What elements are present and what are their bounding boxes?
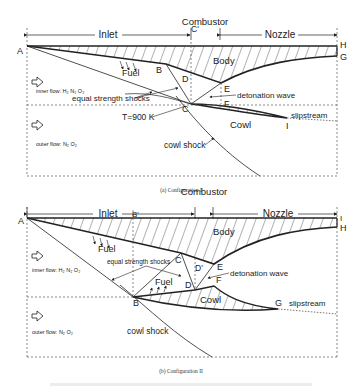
figure-caption-faint <box>50 383 312 386</box>
section-label-nozzle: Nozzle <box>265 29 296 40</box>
point-G: G <box>340 52 347 62</box>
point-A: A <box>17 46 23 56</box>
point-C: C <box>182 104 189 114</box>
figure: Inlet Combustor Nozzle A B C <box>0 0 362 389</box>
label-detonation-wave-2: detonation wave <box>230 269 289 278</box>
point-B-2: B <box>133 298 139 308</box>
point-C-prime: C' <box>191 24 199 34</box>
label-equal-strength-shocks: equal strength shocks <box>72 94 150 103</box>
label-slipstream-2: slipstream <box>289 299 326 308</box>
label-equal-strength-shocks-2: equal strength shocks <box>107 258 171 266</box>
label-body: Body <box>213 55 235 66</box>
point-D-2: D <box>185 280 192 290</box>
label-cowl-shock: cowl shock <box>164 140 206 150</box>
label-body-2: Body <box>213 226 235 237</box>
point-B: B <box>156 65 162 75</box>
outer-flow-arrow-icon <box>32 120 43 130</box>
label-outer-flow-2: outer flow: N₂ O₂ <box>32 329 73 335</box>
label-fuel-top: Fuel <box>98 244 116 254</box>
configuration-2-diagram: Inlet Combustor Nozzle A B B' C <box>18 186 347 375</box>
point-F-2: F <box>216 275 222 285</box>
outer-flow-arrow-icon-2 <box>32 311 43 321</box>
point-E: E <box>224 84 230 94</box>
inner-flow-arrow-icon <box>32 77 43 87</box>
label-fuel-cowl: Fuel <box>155 277 173 287</box>
section-label-combustor: Combustor <box>182 16 228 27</box>
point-B-prime: B' <box>132 210 139 219</box>
label-fuel: Fuel <box>122 68 140 78</box>
label-slipstream: slipstream <box>291 111 328 120</box>
point-I: I <box>286 121 289 131</box>
point-F: F <box>224 99 230 109</box>
point-E-2: E <box>217 262 223 272</box>
point-I-2: I <box>340 214 342 223</box>
point-A-2: A <box>18 216 24 226</box>
label-temperature: T=900 K <box>122 112 155 122</box>
label-cowl-2: Cowl <box>200 294 221 305</box>
point-G-2: G <box>275 298 282 308</box>
point-H: H <box>340 40 347 50</box>
point-H-2: H <box>340 223 347 233</box>
inner-flow-arrow-icon-2 <box>32 251 43 261</box>
section-label-combustor-2: Combustor <box>181 186 227 197</box>
detonation-wave-line <box>191 83 221 104</box>
point-C-2: C <box>175 255 182 265</box>
label-inner-flow-2: inner flow: H₂ N₂ O₂ <box>32 267 80 273</box>
label-detonation-wave: detonation wave <box>237 91 296 100</box>
label-cowl-shock-2: cowl shock <box>127 326 169 336</box>
section-label-inlet: Inlet <box>99 29 118 40</box>
label-cowl: Cowl <box>230 119 251 130</box>
cowl-hatched <box>191 104 287 118</box>
configuration-1-diagram: Inlet Combustor Nozzle A B C <box>17 16 347 194</box>
point-D-prime: D' <box>195 263 203 273</box>
point-D: D <box>182 74 189 84</box>
caption-config-2: (b) Configuration II <box>159 368 203 375</box>
label-outer-flow: outer flow: N₂ O₂ <box>36 141 77 147</box>
